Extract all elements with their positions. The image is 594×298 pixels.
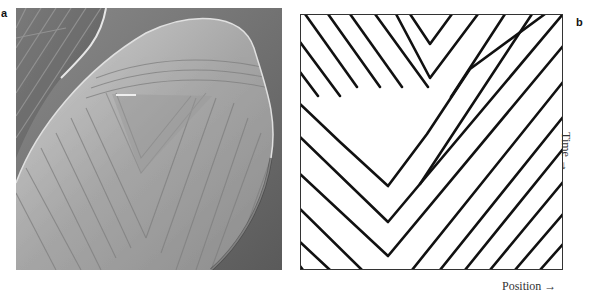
simulated-stripe-pattern (300, 14, 563, 270)
shell-micrograph (16, 8, 282, 270)
position-axis-label: Position → (502, 279, 556, 294)
panel-b-label: b (576, 16, 583, 28)
time-axis-label: Time → (558, 132, 573, 172)
panel-a-label: a (1, 7, 7, 19)
